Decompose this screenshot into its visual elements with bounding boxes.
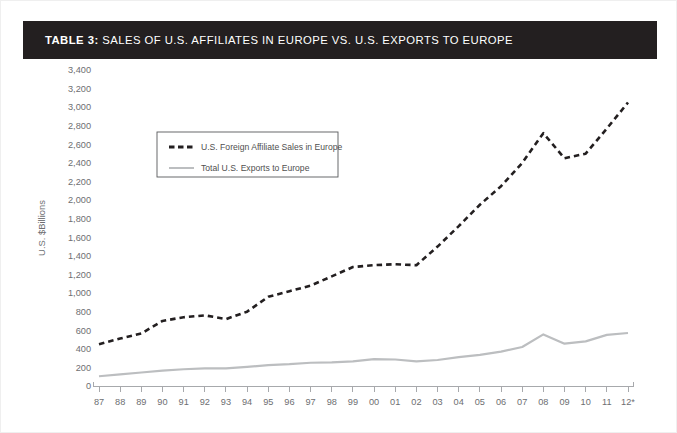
y-tick-label: 0 <box>86 381 91 391</box>
x-tick-label: 90 <box>157 397 167 407</box>
y-axis-title-label: U.S. $Billions <box>36 200 47 256</box>
table-number-label: TABLE 3: <box>45 34 99 46</box>
x-tick-label: 00 <box>369 397 379 407</box>
series-line <box>99 333 628 376</box>
y-tick-label: 2,400 <box>68 158 91 168</box>
y-tick-label: 1,400 <box>68 251 91 261</box>
x-tick-label: 98 <box>327 397 337 407</box>
x-tick-label: 08 <box>538 397 548 407</box>
x-tick-label: 99 <box>348 397 358 407</box>
x-tick-label: 12* <box>621 397 635 407</box>
legend-label: U.S. Foreign Affiliate Sales in Europe <box>201 142 342 152</box>
chart-legend: U.S. Foreign Affiliate Sales in EuropeTo… <box>157 132 342 177</box>
x-tick-label: 91 <box>179 397 189 407</box>
y-tick-label: 2,600 <box>68 140 91 150</box>
line-chart: 02004006008001,0001,2001,4001,6001,8002,… <box>1 59 677 433</box>
x-tick-label: 87 <box>94 397 104 407</box>
y-tick-label: 3,000 <box>68 102 91 112</box>
y-tick-label: 1,800 <box>68 214 91 224</box>
y-tick-label: 1,600 <box>68 233 91 243</box>
y-tick-label: 2,800 <box>68 121 91 131</box>
chart-area: 02004006008001,0001,2001,4001,6001,8002,… <box>1 59 677 433</box>
y-tick-label: 2,000 <box>68 195 91 205</box>
legend-label: Total U.S. Exports to Europe <box>201 163 310 173</box>
x-axis-tick-labels: 8788899091929394959697989900010203040506… <box>94 397 635 407</box>
x-tick-label: 07 <box>517 397 527 407</box>
x-tick-label: 95 <box>263 397 273 407</box>
x-tick-label: 10 <box>581 397 591 407</box>
page-title: TABLE 3: SALES OF U.S. AFFILIATES IN EUR… <box>45 34 513 46</box>
y-tick-label: 1,200 <box>68 270 91 280</box>
x-tick-label: 88 <box>115 397 125 407</box>
y-tick-label: 2,200 <box>68 177 91 187</box>
x-tick-label: 02 <box>411 397 421 407</box>
x-tick-label: 03 <box>432 397 442 407</box>
x-tick-label: 94 <box>242 397 252 407</box>
x-axis <box>93 382 634 392</box>
figure-container: TABLE 3: SALES OF U.S. AFFILIATES IN EUR… <box>0 0 677 433</box>
x-tick-label: 09 <box>559 397 569 407</box>
y-tick-label: 800 <box>76 307 91 317</box>
x-tick-label: 06 <box>496 397 506 407</box>
x-tick-label: 11 <box>602 397 612 407</box>
y-axis-title: U.S. $Billions <box>36 200 47 256</box>
y-axis-tick-labels: 02004006008001,0001,2001,4001,6001,8002,… <box>68 65 91 391</box>
x-tick-label: 05 <box>475 397 485 407</box>
y-tick-label: 600 <box>76 326 91 336</box>
y-tick-label: 3,400 <box>68 65 91 75</box>
table-title-bar: TABLE 3: SALES OF U.S. AFFILIATES IN EUR… <box>23 21 657 59</box>
table-title-label: SALES OF U.S. AFFILIATES IN EUROPE VS. U… <box>99 34 513 46</box>
x-tick-label: 93 <box>221 397 231 407</box>
y-tick-label: 1,000 <box>68 288 91 298</box>
y-tick-label: 400 <box>76 344 91 354</box>
x-tick-label: 01 <box>390 397 400 407</box>
x-tick-label: 97 <box>305 397 315 407</box>
x-tick-label: 89 <box>136 397 146 407</box>
x-tick-label: 04 <box>454 397 464 407</box>
y-tick-label: 200 <box>76 363 91 373</box>
y-tick-label: 3,200 <box>68 84 91 94</box>
x-tick-label: 92 <box>200 397 210 407</box>
x-tick-label: 96 <box>284 397 294 407</box>
